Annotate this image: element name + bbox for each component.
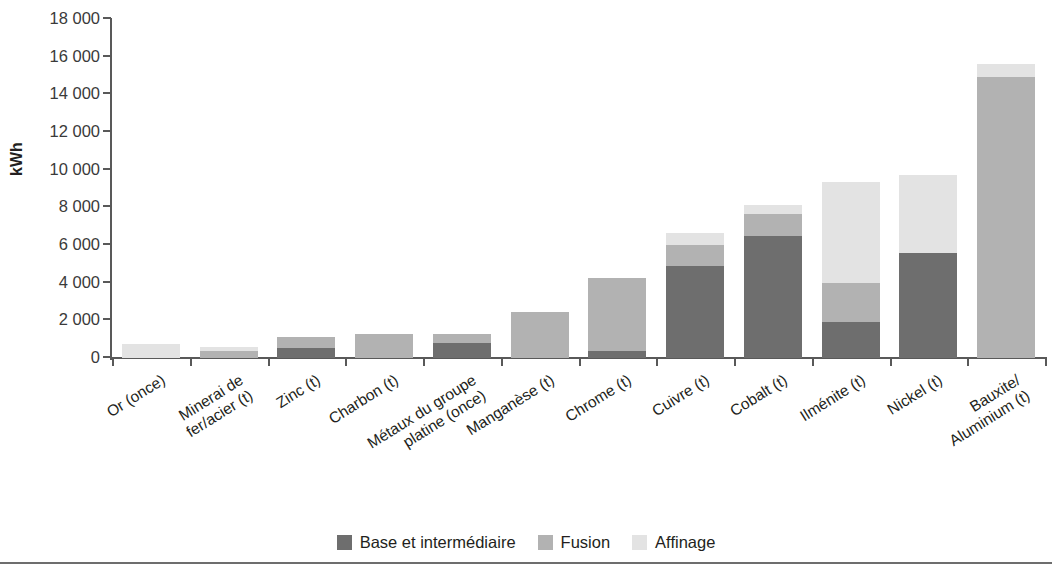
x-axis-tick-mark [501,357,503,366]
bar-segment-fusion [277,337,335,347]
bar-segment-base-et-interm-diaire [822,322,880,358]
bar-segment-fusion [355,334,413,358]
bar-segment-fusion [200,351,258,358]
bar-segment-affinage [822,182,880,283]
y-axis-tick-label: 12 000 [22,123,100,140]
bar-segment-fusion [977,77,1035,358]
x-axis-tick-mark [579,357,581,366]
bar-stack [588,19,646,358]
bar-segment-fusion [666,245,724,266]
chart-legend: Base et intermédiaireFusionAffinage [0,533,1052,552]
y-axis-tick-mark [103,55,111,57]
x-axis-tick-mark [268,357,270,366]
y-axis-tick-label: 16 000 [22,48,100,65]
x-axis-tick-mark [423,357,425,366]
bar-stack [122,19,180,358]
bar-stack [355,19,413,358]
bar-segment-affinage [744,205,802,214]
bar-stack [277,19,335,358]
y-axis-tick-mark [103,130,111,132]
bar-segment-fusion [433,334,491,343]
y-axis-tick-label: 4 000 [22,274,100,291]
x-axis-tick-mark [890,357,892,366]
bar-segment-affinage [666,233,724,245]
bar-stack [744,19,802,358]
x-axis-tick-mark [734,357,736,366]
legend-swatch-affinage-icon [632,535,647,550]
bar-stack [666,19,724,358]
bar-stack [200,19,258,358]
bar-segment-fusion [822,283,880,323]
legend-swatch-fusion-icon [538,535,553,550]
bar-stack [433,19,491,358]
bar-stack [822,19,880,358]
x-axis-tick-mark [190,357,192,366]
legend-item: Affinage [632,533,715,552]
legend-swatch-base-icon [337,535,352,550]
bar-segment-base-et-interm-diaire [433,343,491,358]
x-axis-tick-mark [112,357,114,366]
bar-stack [977,19,1035,358]
bar-segment-base-et-interm-diaire [277,348,335,358]
y-axis-tick-label: 18 000 [22,10,100,27]
y-axis-tick-mark [103,318,111,320]
bar-stack [511,19,569,358]
y-axis-tick-label: 0 [22,349,100,366]
y-axis-tick-label: 2 000 [22,311,100,328]
bar-segment-fusion [588,278,646,351]
y-axis-tick-mark [103,17,111,19]
bar-segment-base-et-interm-diaire [744,236,802,358]
bar-segment-affinage [899,175,957,253]
y-axis-tick-mark [103,281,111,283]
y-axis-tick-label: 10 000 [22,161,100,178]
x-axis-tick-mark [656,357,658,366]
legend-label: Fusion [561,533,611,552]
bar-segment-fusion [511,312,569,358]
y-axis-tick-label: 8 000 [22,198,100,215]
y-axis-tick-mark [103,243,111,245]
y-axis-tick-label: 14 000 [22,85,100,102]
legend-item: Fusion [538,533,611,552]
y-axis-tick-label: 6 000 [22,236,100,253]
y-axis-tick-mark [103,205,111,207]
y-axis-tick-mark [103,356,111,358]
energy-intensity-stacked-bar-chart: kWh 18 00016 00014 00012 00010 0008 0006… [0,0,1052,564]
bar-segment-base-et-interm-diaire [899,253,957,358]
x-axis-tick-mark [345,357,347,366]
bar-segment-base-et-interm-diaire [588,351,646,358]
plot-area [112,18,1045,358]
bar-segment-affinage [200,347,258,350]
legend-label: Base et intermédiaire [360,533,516,552]
x-axis-tick-mark [967,357,969,366]
bar-segment-affinage [977,64,1035,77]
y-axis-tick-mark [103,92,111,94]
bar-segment-fusion [744,214,802,236]
bar-segment-base-et-interm-diaire [666,266,724,358]
y-axis-tick-mark [103,168,111,170]
legend-item: Base et intermédiaire [337,533,516,552]
x-axis-tick-mark [1045,357,1047,366]
bar-segment-affinage [122,344,180,358]
x-axis-tick-mark [812,357,814,366]
legend-label: Affinage [655,533,715,552]
bar-stack [899,19,957,358]
y-axis-tick-labels: 18 00016 00014 00012 00010 0008 0006 000… [22,0,100,380]
